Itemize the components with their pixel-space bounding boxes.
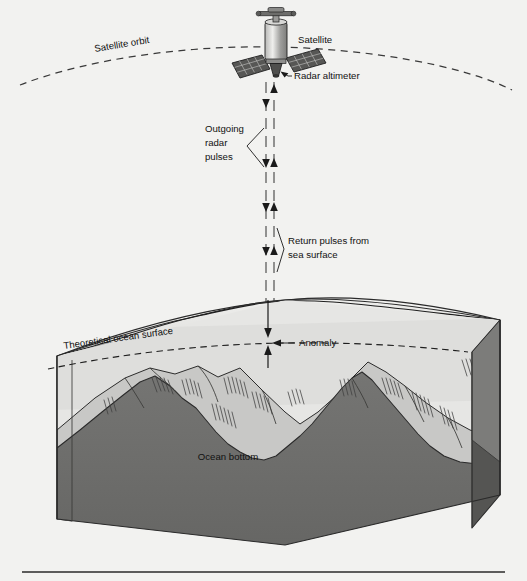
label-radar-altimeter: Radar altimeter xyxy=(294,70,360,81)
label-satellite: Satellite xyxy=(298,34,332,45)
diagram-canvas: Satellite orbit Satellite Radar altimete… xyxy=(0,0,527,581)
label-outgoing-line2: radar xyxy=(205,137,228,148)
label-outgoing-line1: Outgoing xyxy=(205,123,244,134)
label-return-line2: sea surface xyxy=(288,249,338,260)
label-ocean-bottom: Ocean bottom xyxy=(198,451,258,462)
label-anomaly: Anomaly xyxy=(299,337,337,348)
ocean-altimetry-diagram: Satellite orbit Satellite Radar altimete… xyxy=(0,0,527,581)
satellite-body xyxy=(265,22,287,60)
label-outgoing-line3: pulses xyxy=(205,151,233,162)
label-return-line1: Return pulses from xyxy=(288,235,369,246)
